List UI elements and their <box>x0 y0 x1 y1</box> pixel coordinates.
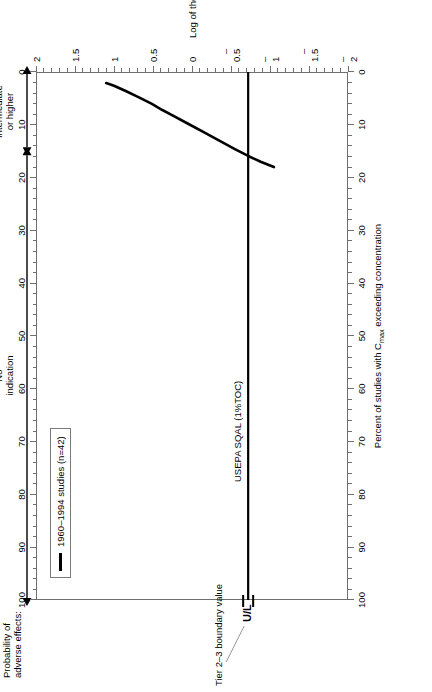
axis-tick-label: 2 <box>31 57 42 62</box>
axis-tick <box>348 93 352 94</box>
axis-tick-label: 40 <box>16 278 27 289</box>
axis-tick-label: 20 <box>16 172 27 183</box>
axis-tick <box>348 325 352 326</box>
axis-tick-label: 0 <box>16 69 27 74</box>
axis-tick-label: 70 <box>16 436 27 447</box>
axis-tick <box>348 526 352 527</box>
axis-tick <box>348 536 352 537</box>
legend-swatch <box>59 553 62 571</box>
axis-tick <box>348 452 352 453</box>
axis-tick <box>348 283 354 284</box>
axis-tick <box>348 82 352 83</box>
axis-tick-label: –1 <box>259 57 281 62</box>
plot-area: 0102030405060708090100 01020304050607080… <box>36 72 348 600</box>
axis-tick-label: 40 <box>356 278 367 289</box>
legend-label: 1960–1994 studies (n=42) <box>55 436 66 547</box>
rotated-figure: Probability ofadverse effects: Noindicat… <box>0 0 432 692</box>
axis-tick <box>348 504 352 505</box>
axis-tick <box>348 357 352 358</box>
axis-tick <box>348 568 352 569</box>
axis-tick <box>348 431 352 432</box>
axis-tick-label: –0.5 <box>220 49 242 62</box>
y-axis-title-post: exceeding concentration <box>372 224 383 330</box>
axis-tick <box>348 462 352 463</box>
axis-tick <box>348 314 352 315</box>
axis-tick <box>348 251 352 252</box>
x-axis-title: Log of the diazinon concentration in sed… <box>187 0 198 38</box>
axis-tick <box>348 103 352 104</box>
axis-tick-label: 10 <box>356 120 367 131</box>
axis-tick <box>348 346 352 347</box>
axis-tick <box>348 72 354 73</box>
axis-tick-label: –2 <box>337 57 359 62</box>
axis-tick <box>348 600 354 601</box>
axis-tick <box>348 209 352 210</box>
axis-tick-label: 50 <box>356 331 367 342</box>
axis-tick <box>348 399 352 400</box>
axis-tick <box>348 272 352 273</box>
axis-tick <box>348 167 352 168</box>
axis-tick <box>348 367 352 368</box>
axis-tick <box>348 262 352 263</box>
figure-canvas: Probability ofadverse effects: Noindicat… <box>0 0 432 692</box>
axis-tick-label: 0 <box>187 57 198 62</box>
axis-tick-label: 1.5 <box>70 49 81 62</box>
axis-tick <box>348 198 352 199</box>
axis-tick-label: 0 <box>356 69 367 74</box>
axis-tick <box>348 409 352 410</box>
axis-tick <box>348 145 352 146</box>
axis-tick <box>348 124 354 125</box>
axis-tick <box>348 135 352 136</box>
axis-tick <box>348 114 352 115</box>
legend[interactable]: 1960–1994 studies (n=42) <box>50 428 71 578</box>
y-axis-title-pre: Percent of studies with C <box>372 343 383 448</box>
tier-boundary-annotation: Tier 2–3 boundary value <box>214 584 225 686</box>
axis-tick-label: 30 <box>16 225 27 236</box>
axis-tick <box>348 156 352 157</box>
axis-tick-label: 60 <box>16 384 27 395</box>
axis-tick-label: 90 <box>16 542 27 553</box>
tier-annotation-leader-line <box>226 626 244 662</box>
axis-tick <box>348 177 354 178</box>
band-label-intermediate-or-higher: Intermediateor higher <box>0 47 16 177</box>
axis-tick <box>348 473 352 474</box>
data-layer <box>36 72 348 600</box>
axis-tick <box>348 388 354 389</box>
axis-tick <box>348 230 354 231</box>
axis-tick-label: 90 <box>356 542 367 553</box>
axis-tick <box>348 219 352 220</box>
axis-tick-label: 0.5 <box>148 49 159 62</box>
axis-tick <box>348 304 352 305</box>
axis-tick-label: 70 <box>356 436 367 447</box>
axis-tick-label: 1 <box>109 57 120 62</box>
axis-tick-label: 10 <box>16 120 27 131</box>
band-label-no-indication: Noindication <box>0 316 16 436</box>
axis-tick <box>348 293 352 294</box>
axis-tick <box>348 557 352 558</box>
y-axis-title-subscript: max <box>377 329 386 343</box>
axis-tick-label: –1.5 <box>298 49 320 62</box>
axis-tick-label: 80 <box>356 489 367 500</box>
y-axis-title: Percent of studies with Cmax exceeding c… <box>372 224 386 448</box>
axis-tick-label: 50 <box>16 331 27 342</box>
axis-tick-label: 60 <box>356 384 367 395</box>
axis-tick <box>348 441 354 442</box>
ul-label: U/L <box>241 604 253 622</box>
axis-tick-label: 100 <box>356 592 367 608</box>
axis-tick <box>348 547 354 548</box>
axis-tick <box>348 240 352 241</box>
axis-tick-label: 100 <box>16 592 27 608</box>
axis-tick <box>348 420 352 421</box>
axis-tick <box>348 483 352 484</box>
axis-tick <box>348 578 352 579</box>
probability-header: Probability ofadverse effects: <box>2 611 23 678</box>
axis-tick <box>348 589 352 590</box>
axis-tick <box>348 336 354 337</box>
axis-tick-label: 30 <box>356 225 367 236</box>
axis-tick <box>348 494 354 495</box>
sqal-label: USEPA SQAL (1%TOC) <box>233 381 244 482</box>
axis-tick-label: 20 <box>356 172 367 183</box>
axis-tick-label: 80 <box>16 489 27 500</box>
axis-tick <box>348 188 352 189</box>
axis-tick <box>348 515 352 516</box>
